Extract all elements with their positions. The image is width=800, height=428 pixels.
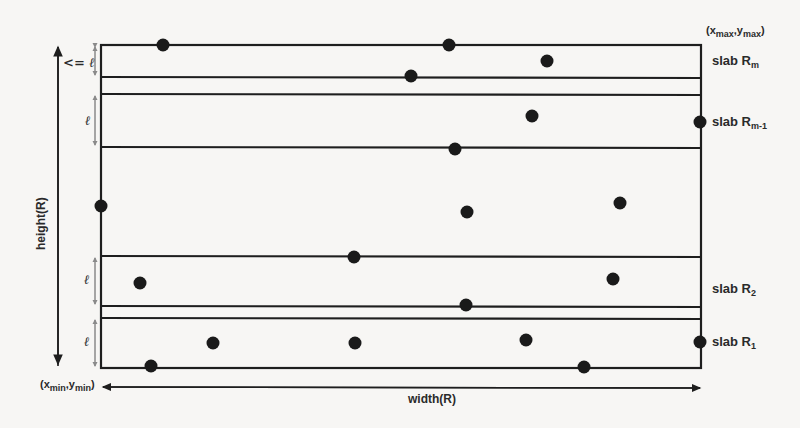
data-point	[449, 143, 462, 156]
slab-label-1: slab R1	[712, 334, 756, 351]
dimension-label-top: <= ℓ	[63, 55, 95, 71]
data-point	[520, 334, 533, 347]
width-arrow	[103, 387, 700, 388]
width-label: width(R)	[408, 392, 456, 406]
slab-diagram	[0, 0, 800, 428]
data-point	[145, 360, 158, 373]
data-points	[95, 39, 707, 374]
corner-max-label: (xmax,ymax)	[706, 24, 765, 39]
data-point	[460, 299, 473, 312]
data-point	[526, 110, 539, 123]
dimension-label-2: ℓ	[84, 272, 90, 288]
slab-label-m-1: slab Rm-1	[712, 114, 767, 131]
dimension-label-m-1: ℓ	[85, 113, 91, 129]
slab-boundary-line	[101, 256, 701, 257]
data-point	[461, 206, 474, 219]
data-point	[157, 39, 170, 52]
data-point	[578, 361, 591, 374]
data-point	[134, 277, 147, 290]
data-point	[541, 55, 554, 68]
data-point	[348, 251, 361, 264]
data-point	[95, 200, 108, 213]
data-point	[607, 273, 620, 286]
slab-label-2: slab R2	[712, 281, 756, 298]
slab-boundary-line	[101, 94, 701, 95]
slab-boundary-line	[101, 318, 701, 319]
height-label: height(R)	[34, 197, 48, 250]
corner-min-label: (xmin,ymin)	[40, 378, 95, 393]
data-point	[614, 197, 627, 210]
data-point	[443, 39, 456, 52]
dimension-label-1: ℓ	[84, 334, 90, 350]
data-point	[694, 336, 707, 349]
slab-boundary-line	[101, 147, 701, 148]
data-point	[694, 116, 707, 129]
slab-label-m: slab Rm	[712, 53, 759, 70]
data-point	[349, 337, 362, 350]
data-point	[405, 70, 418, 83]
slab-boundary-line	[101, 77, 701, 78]
data-point	[207, 337, 220, 350]
slab-boundary-line	[101, 306, 701, 307]
